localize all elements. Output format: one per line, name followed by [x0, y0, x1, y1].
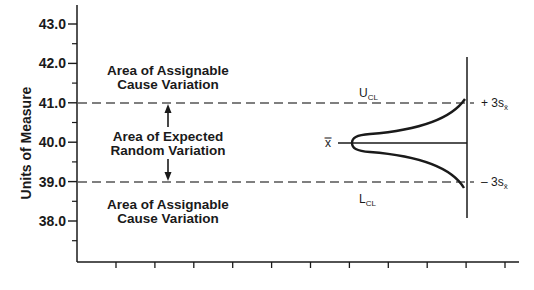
y-ticks: 43.042.041.040.039.038.0: [39, 16, 77, 241]
arrow-down-icon: [165, 159, 172, 181]
ucl-main: U: [359, 86, 368, 100]
ucl-label: UCL: [359, 86, 378, 102]
y-axis-title: Units of Measure: [18, 86, 34, 199]
xbar-label: x̿: [324, 136, 332, 150]
y-tick-label: 39.0: [39, 174, 66, 190]
minus-3s-label: – 3sx̄: [481, 175, 508, 191]
plus-3s-main: + 3s: [481, 96, 504, 110]
y-tick-label: 41.0: [39, 95, 66, 111]
minus-3s-sub: x̄: [504, 182, 508, 191]
y-tick-label: 42.0: [39, 55, 66, 71]
ucl-sub: CL: [368, 93, 379, 102]
middle-area-label-1: Area of Expected: [113, 129, 223, 144]
middle-area-label-2: Random Variation: [111, 143, 226, 158]
lcl-sub: CL: [366, 199, 377, 208]
lower-area-label-1: Area of Assignable: [107, 197, 229, 212]
lcl-label: LCL: [359, 192, 376, 208]
plus-3s-sub: x̄: [504, 103, 508, 112]
chart-svg: Units of Measure 43.042.041.040.039.038.…: [0, 0, 534, 290]
y-tick-label: 43.0: [39, 16, 66, 32]
plus-3s-label: + 3sx̄: [481, 96, 508, 112]
control-chart: Units of Measure 43.042.041.040.039.038.…: [0, 0, 534, 290]
y-tick-label: 40.0: [39, 134, 66, 150]
x-ticks: [116, 262, 505, 268]
lower-area-label-2: Cause Variation: [117, 211, 218, 226]
upper-area-label-1: Area of Assignable: [107, 63, 229, 78]
arrow-up-icon: [165, 104, 172, 127]
upper-area-label-2: Cause Variation: [117, 77, 218, 92]
y-tick-label: 38.0: [39, 213, 66, 229]
minus-3s-main: – 3s: [481, 175, 504, 189]
